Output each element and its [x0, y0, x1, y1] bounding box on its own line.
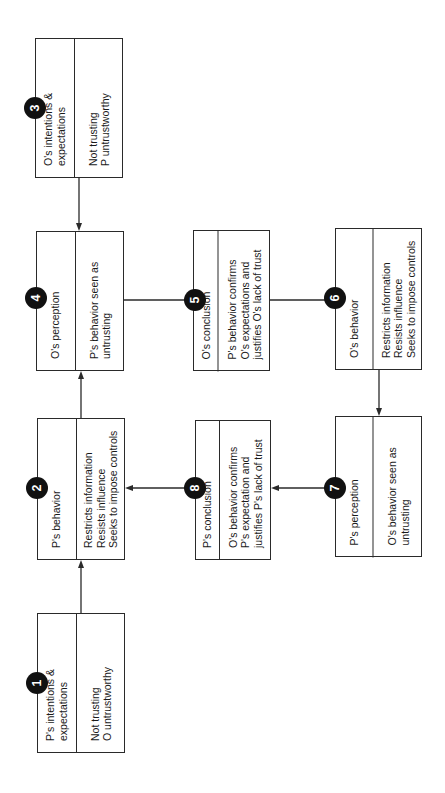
trust-cycle-diagram: P's intentions & expectations Not trusti…: [0, 0, 445, 793]
arrowhead-icon: [78, 560, 84, 568]
connector-arrows: [0, 0, 445, 793]
arrowhead-icon: [76, 223, 82, 231]
arrowhead-icon: [376, 408, 382, 416]
step-number-badge: 5: [184, 289, 206, 311]
step-number-badge: 8: [184, 477, 206, 499]
arrowhead-icon: [271, 485, 279, 491]
step-number-badge: 7: [324, 477, 346, 499]
step-number-badge: 4: [25, 287, 47, 309]
step-number-badge: 3: [24, 97, 46, 119]
arrowhead-icon: [78, 371, 84, 379]
step-number-badge: 2: [26, 477, 48, 499]
arrowhead-icon: [125, 485, 133, 491]
step-number-badge: 1: [26, 672, 48, 694]
step-number-badge: 6: [324, 287, 346, 309]
